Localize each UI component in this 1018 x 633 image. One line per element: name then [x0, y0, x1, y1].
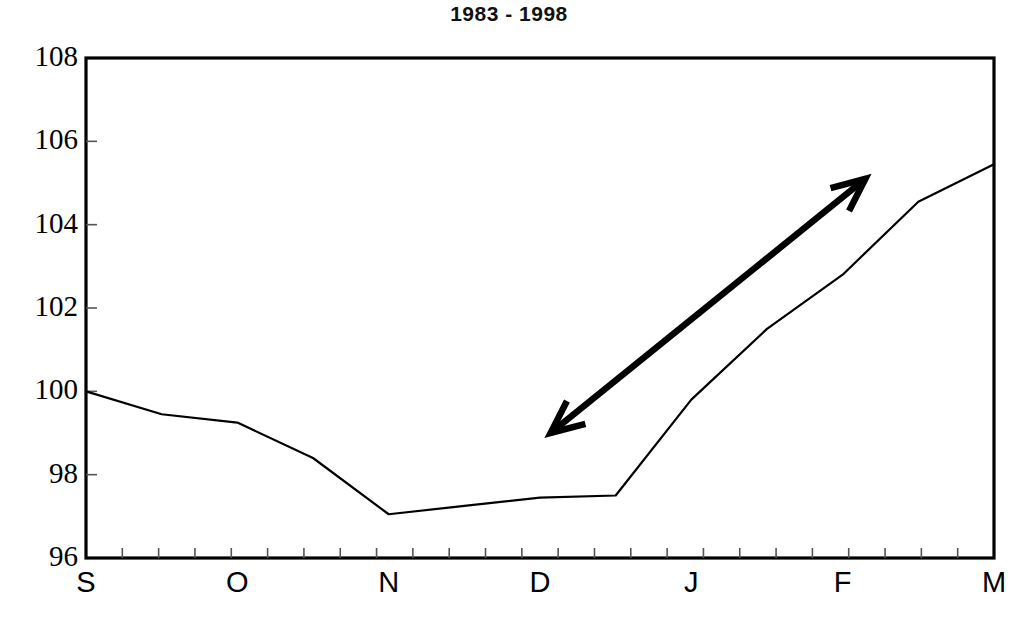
y-axis-tick-label: 96	[49, 542, 78, 571]
y-axis-tick-label: 106	[35, 125, 79, 154]
x-axis-tick-label: F	[803, 568, 883, 597]
y-axis-tick-label: 100	[35, 375, 79, 404]
x-axis-tick-label: S	[46, 568, 126, 597]
chart-plot-area	[0, 0, 1018, 633]
trend-arrow-annotation	[551, 179, 866, 433]
y-axis-tick-label: 104	[35, 209, 79, 238]
chart-container: 1983 - 1998 9698100102104106108 SONDJFM	[0, 0, 1018, 633]
x-axis-tick-label: O	[197, 568, 277, 597]
x-axis-tick-label: M	[954, 568, 1018, 597]
plot-frame	[86, 58, 994, 558]
y-axis-tick-label: 98	[49, 459, 78, 488]
x-axis-tick-label: N	[349, 568, 429, 597]
y-axis-tick-label: 108	[35, 42, 79, 71]
data-line-series	[86, 164, 994, 514]
x-axis-tick-label: D	[500, 568, 580, 597]
y-axis-ticks	[86, 141, 97, 474]
x-axis-tick-label: J	[651, 568, 731, 597]
y-axis-tick-label: 102	[35, 292, 79, 321]
